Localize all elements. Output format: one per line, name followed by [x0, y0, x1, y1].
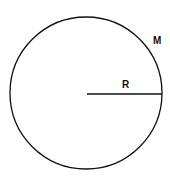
circle-outline: [10, 17, 162, 169]
mass-label: M: [153, 35, 161, 46]
radius-label: R: [122, 79, 130, 90]
circle-diagram: R M: [0, 0, 170, 182]
